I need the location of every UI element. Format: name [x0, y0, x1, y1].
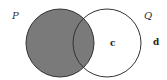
element-c-label: c — [110, 38, 116, 48]
set-p-circle — [26, 9, 94, 77]
set-p-label: P — [11, 10, 19, 21]
set-q-label: Q — [144, 10, 152, 21]
element-d-label: d — [153, 37, 160, 47]
venn-diagram: P Q c d — [0, 0, 167, 80]
